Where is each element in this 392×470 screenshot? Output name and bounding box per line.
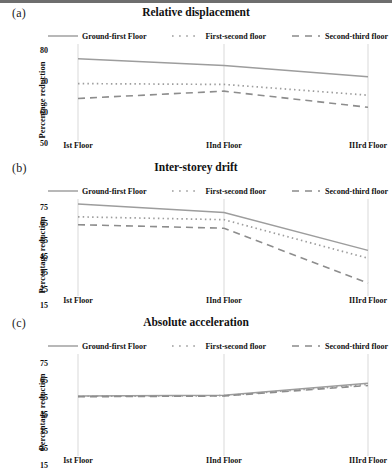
series-line <box>78 59 368 77</box>
x-tick-label: IInd Floor <box>206 296 242 305</box>
y-tick-label: 35 <box>40 426 48 435</box>
series-line <box>78 384 368 396</box>
series-line <box>78 383 368 396</box>
figure-root: (a) Relative displacement Ground-first F… <box>0 0 392 470</box>
x-tick-label: IIIrd Floor <box>349 296 387 305</box>
dotted-line-swatch <box>171 32 201 40</box>
solid-line-swatch <box>48 342 78 350</box>
x-tick-label: IIIrd Floor <box>349 456 387 465</box>
y-tick-label: 15 <box>40 301 48 310</box>
panel-c: (c) Absolute acceleration Ground-first F… <box>0 310 392 470</box>
legend-label-ground-first: Ground-first Floor <box>82 342 147 351</box>
series-line <box>78 84 368 96</box>
legend-label-second-third: Second-third floor <box>325 342 388 351</box>
panel-c-title: Absolute acceleration <box>0 316 392 328</box>
panel-a-plot-area <box>56 44 386 141</box>
panel-b-title: Inter-storey drift <box>0 161 392 173</box>
legend-label-first-second: First-second floor <box>205 187 266 196</box>
panel-b-ytick-column: 15253545556575 <box>22 199 48 310</box>
y-tick-label: 25 <box>40 284 48 293</box>
legend-item-first-second: First-second floor <box>171 187 266 196</box>
y-tick-label: 55 <box>40 392 48 401</box>
legend-label-second-third: Second-third floor <box>325 32 388 41</box>
panel-c-legend: Ground-first Floor First-second floor Se… <box>48 338 388 354</box>
x-tick-label: Ist Floor <box>63 296 93 305</box>
legend-item-second-third: Second-third floor <box>291 342 388 351</box>
series-line <box>78 91 368 107</box>
dashed-line-swatch <box>291 32 321 40</box>
y-tick-label: 65 <box>40 375 48 384</box>
legend-item-ground-first: Ground-first Floor <box>48 32 147 41</box>
dashed-line-swatch <box>291 187 321 195</box>
legend-item-first-second: First-second floor <box>171 342 266 351</box>
legend-item-ground-first: Ground-first Floor <box>48 187 147 196</box>
panel-b-legend: Ground-first Floor First-second floor Se… <box>48 183 388 199</box>
y-tick-label: 55 <box>40 235 48 244</box>
legend-label-ground-first: Ground-first Floor <box>82 32 147 41</box>
panel-c-ytick-column: 15253545556575 <box>22 354 48 470</box>
panel-a: (a) Relative displacement Ground-first F… <box>0 0 392 155</box>
y-tick-label: 45 <box>40 252 48 261</box>
y-tick-label: 50 <box>40 138 48 147</box>
legend-item-second-third: Second-third floor <box>291 187 388 196</box>
panel-c-plot: Percentage reduction 15253545556575 Ist … <box>0 354 392 470</box>
y-tick-label: 35 <box>40 268 48 277</box>
x-tick-label: IInd Floor <box>206 456 242 465</box>
legend-label-second-third: Second-third floor <box>325 187 388 196</box>
series-line <box>78 217 368 258</box>
solid-line-swatch <box>48 32 78 40</box>
y-tick-label: 65 <box>40 219 48 228</box>
panel-a-legend: Ground-first Floor First-second floor Se… <box>48 28 388 44</box>
y-tick-label: 75 <box>40 203 48 212</box>
panel-b-plot: Percentage reduction 15253545556575 Ist … <box>0 199 392 310</box>
panel-b: (b) Inter-storey drift Ground-first Floo… <box>0 155 392 310</box>
legend-item-first-second: First-second floor <box>171 32 266 41</box>
y-tick-label: 75 <box>40 358 48 367</box>
dotted-line-swatch <box>171 342 201 350</box>
dashed-line-swatch <box>291 342 321 350</box>
legend-label-first-second: First-second floor <box>205 342 266 351</box>
panel-c-xtick-row: Ist FloorIInd FloorIIIrd Floor <box>56 456 386 470</box>
legend-label-ground-first: Ground-first Floor <box>82 187 147 196</box>
y-tick-label: 15 <box>40 460 48 469</box>
legend-label-first-second: First-second floor <box>205 32 266 41</box>
y-tick-label: 45 <box>40 409 48 418</box>
legend-item-ground-first: Ground-first Floor <box>48 342 147 351</box>
series-line <box>78 225 368 283</box>
panel-a-plot: Percentage reduction 50607080 Ist FloorI… <box>0 44 392 155</box>
panel-b-xtick-row: Ist FloorIInd FloorIIIrd Floor <box>56 296 386 310</box>
x-tick-label: IInd Floor <box>206 141 242 150</box>
y-tick-label: 60 <box>40 107 48 116</box>
legend-item-second-third: Second-third floor <box>291 32 388 41</box>
dotted-line-swatch <box>171 187 201 195</box>
solid-line-swatch <box>48 187 78 195</box>
x-tick-label: IIIrd Floor <box>349 141 387 150</box>
x-tick-label: Ist Floor <box>63 456 93 465</box>
y-tick-label: 80 <box>40 46 48 55</box>
panel-a-ytick-column: 50607080 <box>22 44 48 155</box>
y-tick-label: 25 <box>40 443 48 452</box>
panel-a-title: Relative displacement <box>0 6 392 18</box>
x-tick-label: Ist Floor <box>63 141 93 150</box>
y-tick-label: 70 <box>40 76 48 85</box>
series-line <box>78 204 368 250</box>
panel-b-plot-area <box>56 199 386 296</box>
panel-a-xtick-row: Ist FloorIInd FloorIIIrd Floor <box>56 141 386 155</box>
panel-c-plot-area <box>56 354 386 456</box>
